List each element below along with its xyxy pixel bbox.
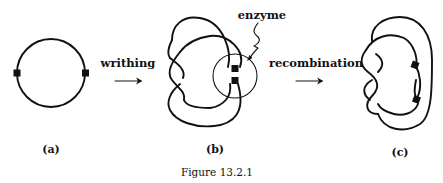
recombination-arrow-group: recombination xyxy=(269,56,364,85)
panel-b-label: (b) xyxy=(206,143,224,156)
panel-a-label: (a) xyxy=(42,143,60,156)
recombination-site-left xyxy=(14,70,21,77)
enzyme-pointer xyxy=(250,23,259,58)
enzyme-site-top xyxy=(232,65,239,72)
strand-twist-1 xyxy=(168,40,172,58)
dna-loop-circle xyxy=(17,39,85,107)
enzyme-circle xyxy=(213,54,257,98)
writhing-arrow-group: writhing xyxy=(100,56,156,85)
figure-caption: Figure 13.2.1 xyxy=(181,166,253,178)
figure-13-2-1: (a) writhing enzyme (b) recombination xyxy=(0,0,443,183)
recombination-site-right xyxy=(82,70,89,77)
recombination-label: recombination xyxy=(269,56,364,70)
enzyme-label: enzyme xyxy=(238,8,286,22)
panel-b: enzyme (b) xyxy=(168,8,286,156)
panel-c-label: (c) xyxy=(391,146,408,159)
panel-c: (c) xyxy=(362,17,432,159)
strand-twist-3 xyxy=(170,58,184,78)
knot-twist-2 xyxy=(376,54,382,72)
panel-a: (a) xyxy=(14,39,90,156)
strand-inner-top xyxy=(180,36,241,67)
enzyme-site-bottom xyxy=(232,77,239,84)
knot-site-bottom xyxy=(412,95,421,104)
knot-outer xyxy=(372,17,432,129)
knot-site-top xyxy=(411,61,420,70)
knot-inner-bottom xyxy=(378,104,418,115)
writhing-label: writhing xyxy=(100,56,156,70)
knot-inner-top xyxy=(366,35,417,66)
strand-twist-5 xyxy=(184,84,230,108)
